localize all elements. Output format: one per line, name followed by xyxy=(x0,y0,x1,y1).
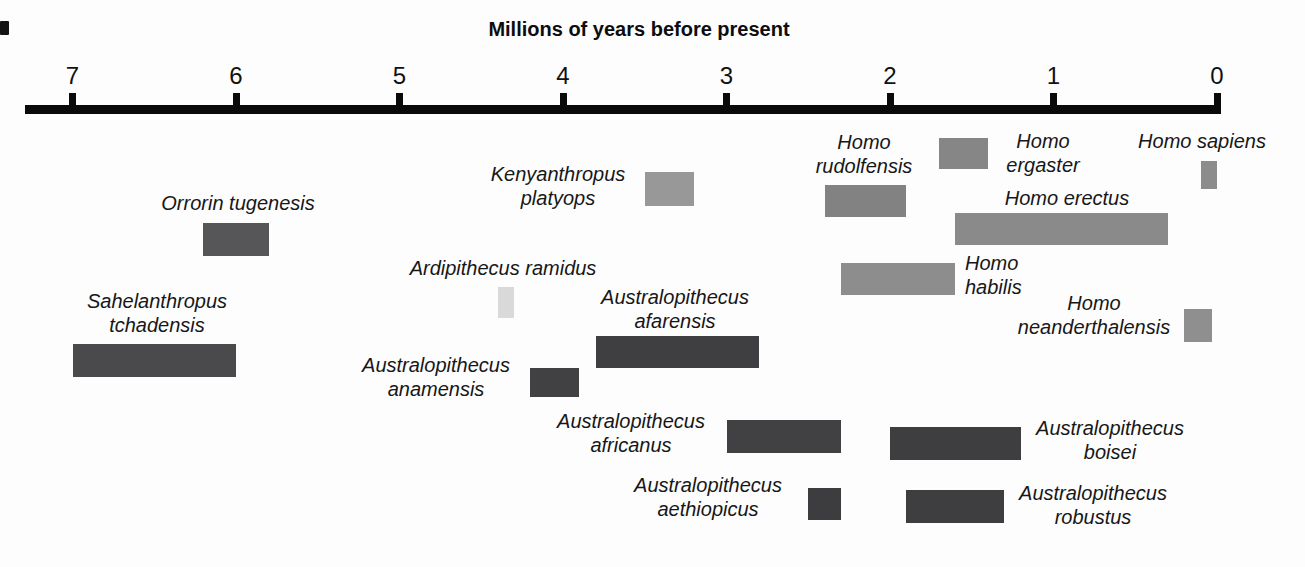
species-label: Homo ergaster xyxy=(1006,129,1079,177)
species-bar xyxy=(498,287,514,318)
species-label: Homo rudolfensis xyxy=(816,130,913,178)
species-label: Homo erectus xyxy=(1005,186,1130,210)
axis-tick xyxy=(887,93,894,114)
axis-tick xyxy=(560,93,567,114)
species-bar xyxy=(73,344,237,377)
species-bar xyxy=(841,263,955,295)
species-bar xyxy=(203,223,268,256)
scan-artifact-mark xyxy=(0,21,9,35)
axis-tick-label: 0 xyxy=(1210,64,1223,88)
axis-tick xyxy=(723,93,730,114)
chart-title: Millions of years before present xyxy=(488,18,789,41)
species-label: Kenyanthropus platyops xyxy=(491,162,626,210)
species-bar xyxy=(1184,309,1212,342)
axis-line xyxy=(25,105,1221,114)
axis-tick xyxy=(396,93,403,114)
species-bar xyxy=(1201,161,1217,189)
axis-tick xyxy=(1050,93,1057,114)
species-bar xyxy=(727,420,841,453)
species-label: Australopithecus aethiopicus xyxy=(634,473,782,521)
axis-tick-label: 5 xyxy=(393,64,406,88)
axis-tick-label: 4 xyxy=(556,64,569,88)
species-label: Ardipithecus ramidus xyxy=(410,256,597,280)
species-bar xyxy=(808,488,841,520)
species-bar xyxy=(645,172,694,206)
species-label: Australopithecus boisei xyxy=(1036,416,1184,464)
species-label: Australopithecus robustus xyxy=(1019,481,1167,529)
species-bar xyxy=(955,213,1168,245)
species-bar xyxy=(596,336,760,368)
species-bar xyxy=(890,427,1021,460)
species-bar xyxy=(530,368,579,397)
species-label: Orrorin tugenesis xyxy=(161,191,314,215)
species-label: Australopithecus afarensis xyxy=(601,285,749,333)
species-label: Australopithecus anamensis xyxy=(362,353,510,401)
axis-tick-label: 3 xyxy=(720,64,733,88)
axis-tick xyxy=(69,93,76,114)
axis-tick-label: 1 xyxy=(1047,64,1060,88)
hominid-timeline-chart: Millions of years before present 7 6 5 4… xyxy=(0,0,1305,567)
species-label: Homo habilis xyxy=(965,251,1022,299)
species-label: Sahelanthropus tchadensis xyxy=(87,289,227,337)
axis-tick-label: 2 xyxy=(883,64,896,88)
species-label: Homo sapiens xyxy=(1138,129,1266,153)
species-label: Australopithecus africanus xyxy=(557,409,705,457)
species-bar xyxy=(906,490,1004,523)
axis-tick xyxy=(1214,93,1221,114)
species-bar xyxy=(825,185,907,217)
axis-tick-label: 6 xyxy=(229,64,242,88)
species-label: Homo neanderthalensis xyxy=(1018,291,1170,339)
species-bar xyxy=(939,138,988,169)
axis-tick-label: 7 xyxy=(66,64,79,88)
axis-tick xyxy=(233,93,240,114)
